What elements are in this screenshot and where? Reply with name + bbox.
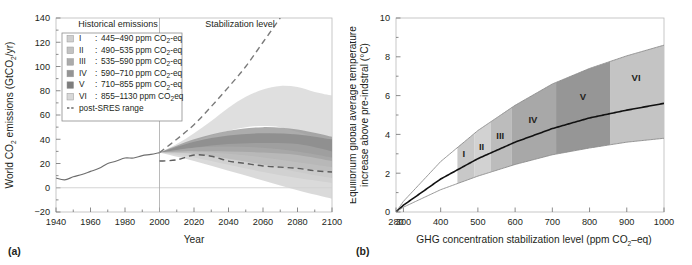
x-tick-700: 700 <box>545 217 560 227</box>
x-tick-600: 600 <box>507 217 522 227</box>
ylabel-part-pre: World CO <box>4 144 15 189</box>
y-tick-0: 0 <box>385 207 390 217</box>
x-tick-labels-a: 194019601980200020202040206020802100 <box>46 217 342 227</box>
header-stabilization-level: Stabilization level <box>205 19 275 29</box>
x-tick-2060: 2060 <box>253 217 273 227</box>
x-tick-2020: 2020 <box>184 217 204 227</box>
band-label-I: I <box>462 148 465 159</box>
x-axis-title-b: GHG concentration stabilization level (p… <box>416 234 651 247</box>
legend-roman-IV: IV <box>79 68 87 78</box>
legend-label-post-sres: post-SRES range <box>79 103 144 113</box>
legend-colon-V: : <box>95 79 97 89</box>
y-tick-140: 140 <box>35 13 50 23</box>
y-tick-120: 120 <box>35 38 50 48</box>
legend-range-I: 445–490 ppm CO2-eq <box>101 33 183 44</box>
legend-range-IV: 590–710 ppm CO2-eq <box>101 68 183 79</box>
band-label-IV: IV <box>528 114 538 125</box>
x-tick-2000: 2000 <box>149 217 169 227</box>
temperature-band-VI <box>610 45 664 145</box>
legend-roman-II: II <box>79 45 84 55</box>
legend-swatch-VI <box>67 93 74 100</box>
band-label-V: V <box>580 91 587 102</box>
xlabel-b-pre: GHG concentration stabilization level (p… <box>416 234 627 245</box>
legend-roman-VI: VI <box>79 91 87 101</box>
xlabel-b-post: –eq) <box>631 234 651 245</box>
x-tick-1940: 1940 <box>46 217 66 227</box>
panel-b-equilibrium-temperature: 0246810 2803004005006007008009001000 III… <box>350 0 692 265</box>
y-tick-40: 40 <box>40 135 50 145</box>
x-tick-2100: 2100 <box>322 217 342 227</box>
header-historical-emissions: Historical emissions <box>78 19 158 29</box>
legend-colon-I: : <box>95 33 97 43</box>
y-tick-6: 6 <box>385 91 390 101</box>
band-label-III: III <box>496 130 504 141</box>
legend-swatch-IV <box>67 70 74 77</box>
y-axis-title-b: Equilibrium global average temperature i… <box>350 26 370 204</box>
y-tick-4: 4 <box>385 130 390 140</box>
y-tick-10: 10 <box>380 13 390 23</box>
legend-swatch-I <box>67 35 74 42</box>
panel-b-svg: 0246810 2803004005006007008009001000 III… <box>350 0 692 265</box>
y-tick--20: −20 <box>34 207 50 217</box>
svg-text:World CO2 emissions (GtCO2/yr): World CO2 emissions (GtCO2/yr) <box>4 42 17 189</box>
legend-swatch-III <box>67 59 74 66</box>
ipcc-emissions-temperature-figure: −20020406080100120140 194019601980200020… <box>0 0 692 265</box>
x-tick-300: 300 <box>396 217 411 227</box>
y-tick-100: 100 <box>35 62 50 72</box>
panel-label-b: (b) <box>356 245 369 257</box>
x-tick-400: 400 <box>433 217 448 227</box>
band-label-VI: VI <box>632 72 641 83</box>
legend-range-V: 710–855 ppm CO2-eq <box>101 79 183 90</box>
x-tick-900: 900 <box>619 217 634 227</box>
y-axis-title-a: World CO2 emissions (GtCO2/yr) <box>4 42 17 189</box>
panel-a-co2-emissions: −20020406080100120140 194019601980200020… <box>0 0 350 265</box>
legend-colon-VI: : <box>95 91 97 101</box>
y-tick-2: 2 <box>385 169 390 179</box>
y-axis-title-b-line1: Equilibrium global average temperature <box>350 26 358 204</box>
ylabel-part-post: /yr) <box>4 42 15 57</box>
legend-colon-II: : <box>95 45 97 55</box>
panel-a-svg: −20020406080100120140 194019601980200020… <box>0 0 350 265</box>
legend-colon-IV: : <box>95 68 97 78</box>
legend-roman-V: V <box>79 79 85 89</box>
legend-range-III: 535–590 ppm CO2-eq <box>101 56 183 67</box>
y-tick-80: 80 <box>40 86 50 96</box>
x-tick-800: 800 <box>582 217 597 227</box>
y-tick-8: 8 <box>385 52 390 62</box>
x-tick-1000: 1000 <box>654 217 674 227</box>
x-tick-1980: 1980 <box>115 217 135 227</box>
legend-colon-III: : <box>95 56 97 66</box>
legend-roman-III: III <box>79 56 86 66</box>
band-label-II: II <box>479 141 484 152</box>
y-tick-20: 20 <box>40 159 50 169</box>
y-tick-0: 0 <box>45 183 50 193</box>
legend-swatch-II <box>67 47 74 54</box>
legend-panel-a: I:445–490 ppm CO2-eqII:490–535 ppm CO2-e… <box>62 33 184 121</box>
x-tick-500: 500 <box>470 217 485 227</box>
x-tick-2040: 2040 <box>218 217 238 227</box>
legend-swatch-V <box>67 82 74 89</box>
panel-label-a: (a) <box>8 245 21 257</box>
y-tick-labels-a: −20020406080100120140 <box>34 13 50 217</box>
y-tick-60: 60 <box>40 110 50 120</box>
y-axis-title-b-line2: increase above pre-indstral (°C) <box>359 43 370 187</box>
legend-roman-I: I <box>79 33 81 43</box>
x-tick-1960: 1960 <box>80 217 100 227</box>
legend-range-II: 490–535 ppm CO2-eq <box>101 45 183 56</box>
x-tick-labels-b: 2803004005006007008009001000 <box>388 217 674 227</box>
ylabel-part-mid: emissions (GtCO <box>4 60 15 140</box>
x-axis-title-a: Year <box>184 234 205 245</box>
y-tick-labels-b: 0246810 <box>380 13 390 217</box>
x-tick-2080: 2080 <box>287 217 307 227</box>
